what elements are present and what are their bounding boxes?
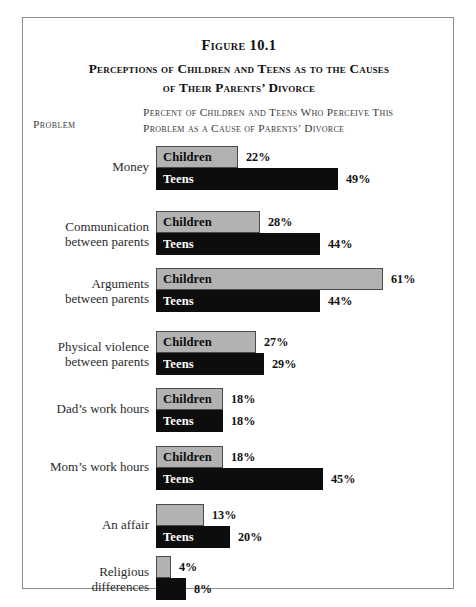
bar-group-label-line-1: Dad’s work hours [57, 401, 149, 416]
bar-row: Teens18% [156, 410, 455, 432]
bar-chart-plot: MoneyChildren22%Teens49%Communicationbet… [23, 18, 455, 590]
bar-value-label: 20% [238, 530, 262, 545]
bar-group-label-line-1: Arguments [91, 276, 149, 291]
bar-children: Children [156, 211, 260, 233]
bar-row: Children27% [156, 331, 455, 353]
bar-value-label: 18% [231, 414, 255, 429]
bar-series-label: Children [163, 450, 212, 465]
bar-series-label: Children [163, 215, 212, 230]
bar-row: 8% [156, 578, 455, 600]
bar-value-label: 44% [328, 294, 352, 309]
bar-group-label-line-1: Money [112, 159, 149, 174]
bar-row: 4% [156, 556, 455, 578]
bar-value-label: 22% [246, 150, 270, 165]
bar-value-label: 49% [346, 172, 370, 187]
bar-group-label-line-2: between parents [23, 354, 149, 369]
bar-children: Children [156, 268, 383, 290]
bar-group: Physical violencebetween parentsChildren… [23, 331, 455, 375]
bar-group-label: Communicationbetween parents [23, 219, 149, 250]
bar-row: Teens44% [156, 290, 455, 312]
bar-series-label: Children [163, 272, 212, 287]
bar-group-label-line-1: Physical violence [58, 339, 149, 354]
bar-series-label: Children [163, 150, 212, 165]
bar-group-label: Religiousdifferences [23, 564, 149, 595]
bar-value-label: 45% [331, 472, 355, 487]
bar-group-label-line-1: Religious [99, 564, 149, 579]
bar-row: Teens29% [156, 353, 455, 375]
bar-group: Dad’s work hoursChildren18%Teens18% [23, 388, 455, 432]
bar-series-label: Teens [163, 237, 194, 252]
bar-group-label: An affair [23, 517, 149, 532]
bar-group-label: Argumentsbetween parents [23, 276, 149, 307]
bar-group: Communicationbetween parentsChildren28%T… [23, 211, 455, 255]
bar-teens: Teens [156, 526, 230, 548]
bar-row: Teens44% [156, 233, 455, 255]
bar-teens: Teens [156, 290, 320, 312]
bar-group-label-line-2: between parents [23, 291, 149, 306]
bar-group-label-line-1: Communication [65, 219, 149, 234]
bar-group-label: Physical violencebetween parents [23, 339, 149, 370]
bar-series-label: Teens [163, 414, 194, 429]
bar-group: Mom’s work hoursChildren18%Teens45% [23, 446, 455, 490]
bar-children [156, 556, 171, 578]
bar-group: Religiousdifferences4%8% [23, 556, 455, 600]
bar-row: 13% [156, 504, 455, 526]
bar-row: Teens20% [156, 526, 455, 548]
bar-group: An affair13%Teens20% [23, 504, 455, 548]
bar-group-label-line-1: An affair [102, 517, 149, 532]
bar-group-label-line-2: differences [23, 579, 149, 594]
bar-children [156, 504, 204, 526]
bar-value-label: 27% [264, 335, 288, 350]
bar-value-label: 28% [268, 215, 292, 230]
bar-series-label: Teens [163, 172, 194, 187]
bar-group-label-line-1: Mom’s work hours [50, 459, 149, 474]
bar-children: Children [156, 331, 256, 353]
bar-row: Children22% [156, 146, 455, 168]
bar-teens: Teens [156, 410, 223, 432]
bar-value-label: 29% [272, 357, 296, 372]
bar-series-label: Teens [163, 472, 194, 487]
bar-row: Children18% [156, 388, 455, 410]
bar-row: Children28% [156, 211, 455, 233]
bar-teens: Teens [156, 353, 264, 375]
bar-teens: Teens [156, 233, 320, 255]
bar-group: Argumentsbetween parentsChildren61%Teens… [23, 268, 455, 312]
bar-value-label: 61% [391, 272, 415, 287]
bar-series-label: Children [163, 335, 212, 350]
bar-series-label: Teens [163, 530, 194, 545]
bar-group-label: Dad’s work hours [23, 401, 149, 416]
bar-teens [156, 578, 186, 600]
bar-value-label: 8% [194, 582, 212, 597]
bar-children: Children [156, 146, 238, 168]
bar-group-label: Money [23, 159, 149, 174]
bar-children: Children [156, 446, 223, 468]
bar-row: Children18% [156, 446, 455, 468]
figure-frame: Figure 10.1 Perceptions of Children and … [22, 17, 454, 589]
bar-group: MoneyChildren22%Teens49% [23, 146, 455, 190]
bar-teens: Teens [156, 168, 338, 190]
bar-row: Children61% [156, 268, 455, 290]
bar-value-label: 18% [231, 450, 255, 465]
bar-series-label: Teens [163, 294, 194, 309]
bar-value-label: 13% [212, 508, 236, 523]
bar-group-label-line-2: between parents [23, 234, 149, 249]
bar-row: Teens45% [156, 468, 455, 490]
bar-value-label: 44% [328, 237, 352, 252]
bar-group-label: Mom’s work hours [23, 459, 149, 474]
bar-children: Children [156, 388, 223, 410]
bar-teens: Teens [156, 468, 323, 490]
bar-series-label: Children [163, 392, 212, 407]
bar-series-label: Teens [163, 357, 194, 372]
bar-row: Teens49% [156, 168, 455, 190]
bar-value-label: 4% [179, 560, 197, 575]
bar-value-label: 18% [231, 392, 255, 407]
